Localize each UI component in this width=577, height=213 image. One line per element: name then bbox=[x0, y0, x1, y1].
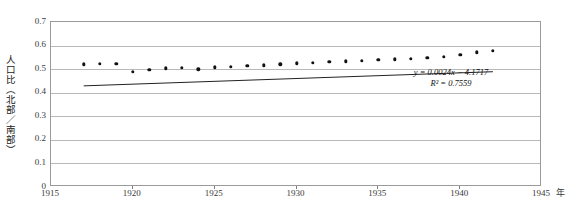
regression-annotation: y = 0.0024x − 4.1717 R² = 0.7559 bbox=[385, 67, 517, 89]
x-axis-tick-label: 1920 bbox=[123, 188, 141, 198]
y-axis-tick-labels: 00.10.20.30.40.50.60.7 bbox=[18, 21, 46, 186]
x-axis-tick-label: 1940 bbox=[450, 188, 468, 198]
plot-area: y = 0.0024x − 4.1717 R² = 0.7559 bbox=[50, 21, 541, 186]
y-axis-tick-label: 0.4 bbox=[22, 87, 46, 96]
y-axis-tick-label: 0.5 bbox=[22, 64, 46, 73]
y-axis-tick-label: 0.1 bbox=[22, 158, 46, 167]
x-axis-tick-label: 1935 bbox=[368, 188, 386, 198]
y-axis-tick-label: 0.7 bbox=[22, 17, 46, 26]
trendline bbox=[51, 22, 542, 187]
regression-r-squared: R² = 0.7559 bbox=[385, 78, 517, 89]
regression-equation: y = 0.0024x − 4.1717 bbox=[385, 67, 517, 78]
y-axis-tick-label: 0.3 bbox=[22, 111, 46, 120]
x-axis-tick-label: 1925 bbox=[205, 188, 223, 198]
x-axis-tick-label: 1915 bbox=[41, 188, 59, 198]
x-axis-tick-label: 1930 bbox=[287, 188, 305, 198]
x-axis-unit-label: 年 bbox=[556, 188, 565, 198]
chart-container: 第2図 北部／南部人口比の推移 人口比（北部／南部） 00.10.20.30.4… bbox=[0, 0, 577, 213]
x-axis-tick-label: 1945 bbox=[532, 188, 550, 198]
y-axis-tick-label: 0.2 bbox=[22, 134, 46, 143]
x-axis-tick-labels: 年 1915192019251930193519401945 bbox=[0, 188, 577, 202]
y-axis-title: 人口比（北部／南部） bbox=[2, 55, 15, 175]
y-axis-tick-label: 0.6 bbox=[22, 40, 46, 49]
